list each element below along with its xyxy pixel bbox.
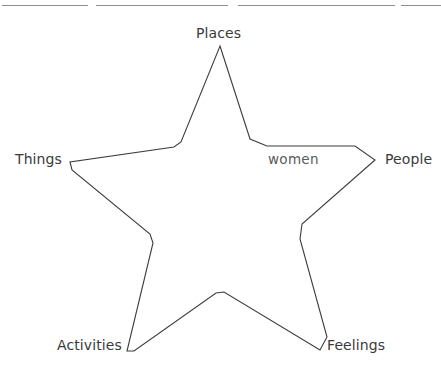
- label-activities: Activities: [57, 337, 122, 353]
- star-diagram: [0, 0, 441, 368]
- annotation-women: women: [268, 151, 319, 167]
- label-things: Things: [15, 151, 62, 167]
- label-people: People: [385, 151, 432, 167]
- label-feelings: Feelings: [327, 337, 385, 353]
- label-places: Places: [196, 25, 241, 41]
- worksheet-canvas: Places Things People Activities Feelings…: [0, 0, 441, 368]
- star-outline: [70, 46, 375, 351]
